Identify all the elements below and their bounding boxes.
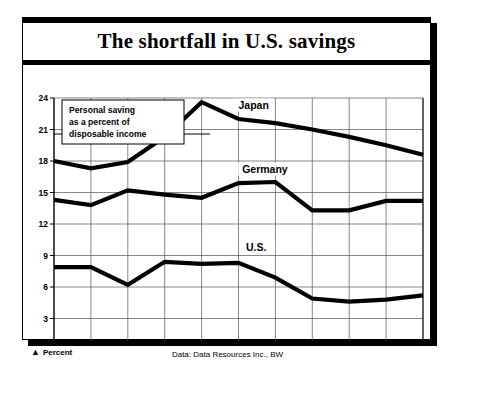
- chart-title: The shortfall in U.S. savings: [98, 29, 356, 54]
- source-note: Data: Data Resources Inc., BW: [23, 350, 432, 359]
- y-axis-tick-label: 3: [43, 314, 48, 324]
- line-chart-svg: 03691215182124 1970197119721973197419751…: [23, 65, 432, 341]
- y-axis-tick-label: 9: [43, 251, 48, 261]
- annotation-callout: Personal savingas a percent ofdisposable…: [54, 100, 210, 144]
- annotation-line-3: disposable income: [69, 129, 147, 139]
- y-axis-tick-label: 18: [39, 156, 49, 166]
- annotation-line-1: Personal saving: [69, 105, 135, 115]
- y-axis-labels-group: 03691215182124: [39, 93, 49, 341]
- y-axis-tick-label: 12: [39, 219, 49, 229]
- chart-figure: The shortfall in U.S. savings 0369121518…: [22, 17, 431, 340]
- title-bar: The shortfall in U.S. savings: [23, 18, 430, 65]
- y-axis-tick-label: 24: [39, 93, 49, 103]
- y-axis-tick-label: 15: [39, 188, 49, 198]
- series-label-germany: Germany: [242, 163, 288, 175]
- y-axis-tick-label: 6: [43, 282, 48, 292]
- annotation-line-2: as a percent of: [69, 117, 130, 127]
- plot-area: 03691215182124 1970197119721973197419751…: [23, 65, 432, 341]
- y-axis-tick-label: 21: [39, 125, 49, 135]
- series-label-japan: Japan: [239, 99, 269, 111]
- figure-frame: The shortfall in U.S. savings 0369121518…: [22, 17, 431, 340]
- series-label-us: U.S.: [246, 241, 267, 253]
